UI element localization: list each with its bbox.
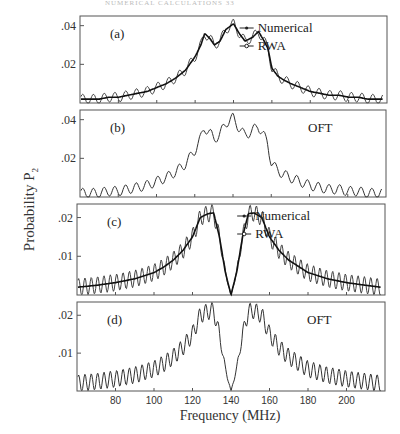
panel-b: .04.02(b)OFT — [61, 110, 386, 197]
legend-numerical: Numerical — [258, 20, 313, 35]
y-tick-label: .02 — [61, 151, 76, 165]
y-tick-label: .02 — [58, 308, 73, 322]
x-tick-label: 160 — [261, 395, 278, 406]
panel-label: (b) — [110, 120, 125, 135]
x-tick-label: 80 — [110, 395, 122, 406]
y-tick-label: .01 — [58, 249, 73, 263]
panel-label: (a) — [110, 26, 124, 41]
x-axis-label: Frequency (MHz) — [150, 408, 310, 424]
oft-label: OFT — [307, 312, 332, 327]
panel-d: .02.01(d)OFT80100120140160180200 — [58, 302, 385, 406]
y-tick-label: .02 — [61, 57, 76, 71]
legend-rwa: RWA — [258, 38, 287, 53]
panel-a: .04.02(a)NumericalRWA — [61, 16, 387, 103]
x-tick-label: 120 — [184, 395, 201, 406]
figure-canvas: .04.02(a)NumericalRWA.04.02(b)OFT.02.01(… — [0, 0, 400, 434]
x-tick-label: 140 — [223, 395, 240, 406]
x-tick-label: 180 — [300, 395, 317, 406]
y-axis-label: Probability P2 — [21, 150, 40, 270]
numerical-curve — [81, 24, 383, 99]
rwa-curve — [81, 19, 383, 102]
oft-curve — [81, 113, 382, 196]
y-tick-label: .02 — [58, 211, 73, 225]
y-tick-label: .04 — [61, 19, 76, 33]
oft-label: OFT — [308, 120, 333, 135]
y-tick-label: .04 — [61, 113, 76, 127]
panel-c: .02.01(c)NumericalRWA — [58, 204, 385, 295]
legend-numerical: Numerical — [255, 208, 310, 223]
y-tick-label: .01 — [58, 346, 73, 360]
x-tick-label: 200 — [338, 395, 355, 406]
panel-label: (d) — [107, 312, 122, 327]
numerical-curve — [78, 213, 381, 294]
legend-rwa: RWA — [255, 226, 284, 241]
oft-curve — [78, 303, 381, 391]
x-tick-label: 100 — [146, 395, 163, 406]
panel-label: (c) — [107, 214, 121, 229]
